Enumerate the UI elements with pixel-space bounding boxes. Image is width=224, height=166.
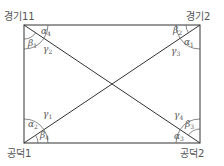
arc-tr-inner <box>186 25 188 33</box>
label-bottom-left: 공덕1 <box>7 148 31 159</box>
angle-tl-0: α4 <box>41 26 51 37</box>
angle-tl-1: β1 <box>27 38 37 49</box>
angle-br-1: β3 <box>184 119 194 130</box>
label-bottom-right: 공덕2 <box>180 148 204 159</box>
angle-tr-0: β2 <box>172 25 182 36</box>
survey-diagram: 경기11 경기2 공덕1 공덕2 α4 β1 γ2 β2 α1 γ3 γ1 α2… <box>0 0 224 166</box>
angle-br-2: α3 <box>174 131 184 142</box>
label-top-right: 경기2 <box>186 10 210 22</box>
angle-bl-1: α2 <box>28 119 38 130</box>
angle-tl-2: γ2 <box>43 44 52 55</box>
angle-bl-2: β4 <box>39 130 49 141</box>
arc-bl-inner <box>36 135 38 143</box>
angle-tr-1: α1 <box>184 37 194 48</box>
angle-br-0: γ4 <box>174 110 183 121</box>
label-top-left: 경기11 <box>4 10 35 22</box>
angle-bl-0: γ1 <box>43 109 52 120</box>
angle-tr-2: γ3 <box>171 46 180 57</box>
